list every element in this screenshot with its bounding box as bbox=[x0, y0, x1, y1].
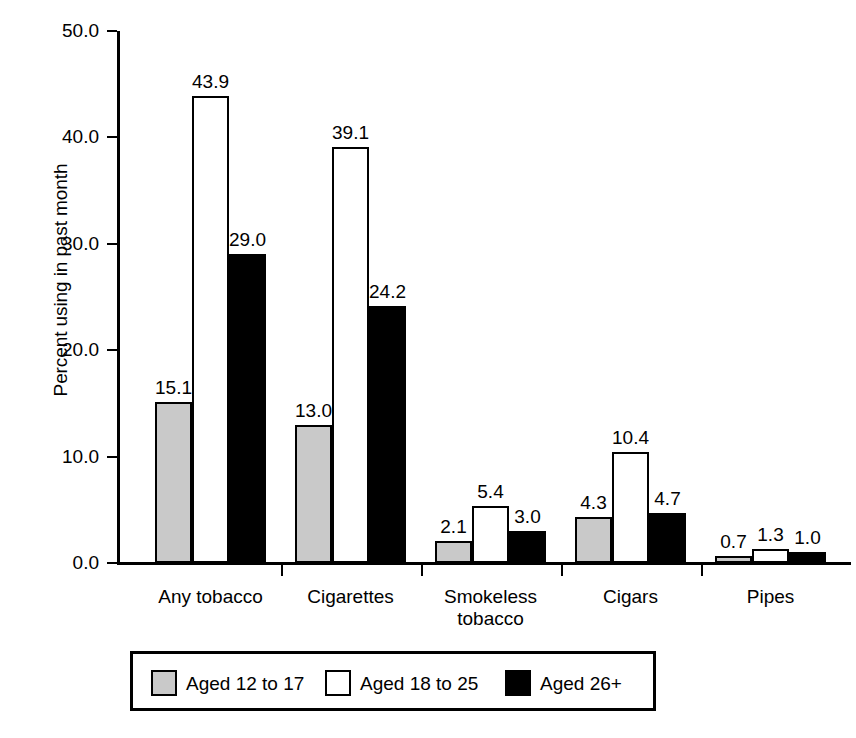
bar bbox=[229, 254, 266, 563]
legend-swatch bbox=[505, 670, 531, 696]
bar bbox=[752, 549, 789, 563]
bar bbox=[295, 425, 332, 563]
x-tick-mark bbox=[701, 565, 703, 576]
bar-value-label: 3.0 bbox=[498, 507, 558, 526]
bar-value-label: 39.1 bbox=[321, 123, 381, 142]
y-tick-label: 20.0 bbox=[35, 340, 99, 359]
bar-chart: Percent using in past month 0.010.020.03… bbox=[0, 0, 856, 738]
x-tick-mark bbox=[281, 565, 283, 576]
y-tick-label-wrap: 40.0 bbox=[33, 127, 99, 146]
x-category-label: Any tobacco bbox=[131, 586, 291, 608]
bar-value-label: 1.0 bbox=[778, 528, 838, 547]
y-tick-mark bbox=[107, 456, 117, 458]
bar-value-label: 4.3 bbox=[564, 493, 624, 512]
y-tick-label: 0.0 bbox=[35, 553, 99, 572]
bar bbox=[192, 96, 229, 563]
y-tick-label-wrap: 50.0 bbox=[33, 21, 99, 40]
bar bbox=[715, 556, 752, 563]
y-axis-title: Percent using in past month bbox=[46, 0, 76, 560]
legend-entry: Aged 12 to 17 bbox=[151, 668, 304, 698]
legend-label: Aged 18 to 25 bbox=[360, 674, 478, 693]
bar-value-label: 43.9 bbox=[181, 72, 241, 91]
bar bbox=[369, 306, 406, 563]
x-category-label: Smokeless tobacco bbox=[411, 586, 571, 630]
bar bbox=[155, 402, 192, 563]
legend-swatch bbox=[151, 670, 177, 696]
bar bbox=[789, 552, 826, 563]
x-category-label: Cigars bbox=[551, 586, 711, 608]
bar-value-label: 4.7 bbox=[638, 489, 698, 508]
y-tick-mark bbox=[107, 349, 117, 351]
y-tick-label-wrap: 20.0 bbox=[33, 340, 99, 359]
x-category-label: Pipes bbox=[691, 586, 851, 608]
bar-value-label: 13.0 bbox=[284, 401, 344, 420]
legend-swatch bbox=[325, 670, 351, 696]
y-axis-line bbox=[117, 31, 120, 565]
y-tick-label: 40.0 bbox=[35, 127, 99, 146]
bar bbox=[332, 147, 369, 563]
bar bbox=[435, 541, 472, 563]
bar bbox=[509, 531, 546, 563]
y-tick-mark bbox=[107, 136, 117, 138]
bar-value-label: 5.4 bbox=[461, 482, 521, 501]
y-tick-mark bbox=[107, 562, 117, 564]
x-tick-mark bbox=[421, 565, 423, 576]
legend-label: Aged 26+ bbox=[540, 674, 622, 693]
x-tick-mark bbox=[561, 565, 563, 576]
y-tick-mark bbox=[107, 30, 117, 32]
y-tick-label: 10.0 bbox=[35, 447, 99, 466]
y-tick-label-wrap: 30.0 bbox=[33, 234, 99, 253]
x-category-label: Cigarettes bbox=[271, 586, 431, 608]
bar-value-label: 15.1 bbox=[144, 378, 204, 397]
bar bbox=[649, 513, 686, 563]
y-tick-label-wrap: 0.0 bbox=[33, 553, 99, 572]
legend-entry: Aged 26+ bbox=[505, 668, 622, 698]
y-tick-mark bbox=[107, 243, 117, 245]
bar-value-label: 2.1 bbox=[424, 517, 484, 536]
legend: Aged 12 to 17Aged 18 to 25Aged 26+ bbox=[130, 651, 656, 711]
bar bbox=[575, 517, 612, 563]
bar-value-label: 29.0 bbox=[218, 230, 278, 249]
legend-entry: Aged 18 to 25 bbox=[325, 668, 478, 698]
y-tick-label: 30.0 bbox=[35, 234, 99, 253]
bar-value-label: 10.4 bbox=[601, 428, 661, 447]
y-tick-label-wrap: 10.0 bbox=[33, 447, 99, 466]
bar-value-label: 24.2 bbox=[358, 282, 418, 301]
y-tick-label: 50.0 bbox=[35, 21, 99, 40]
legend-label: Aged 12 to 17 bbox=[186, 674, 304, 693]
